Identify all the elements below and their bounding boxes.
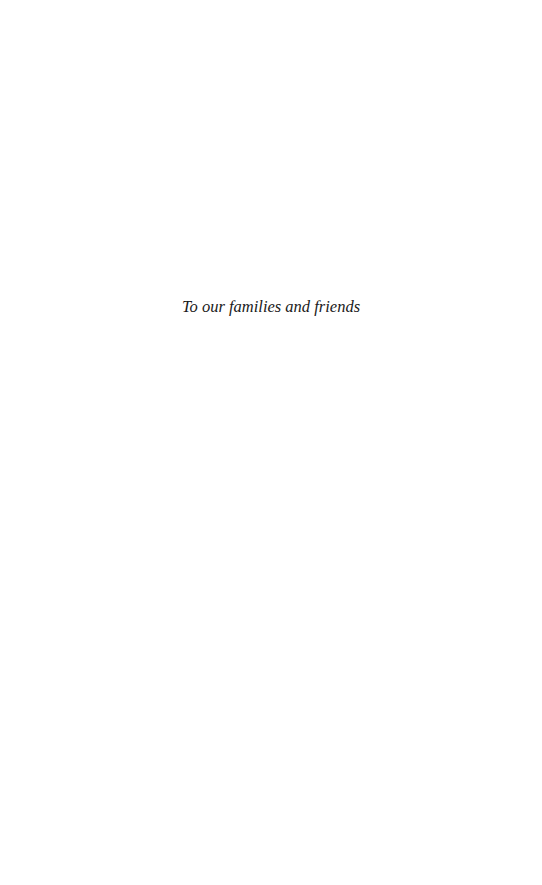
dedication-text: To our families and friends [0,297,542,317]
book-page: To our families and friends [0,0,542,885]
